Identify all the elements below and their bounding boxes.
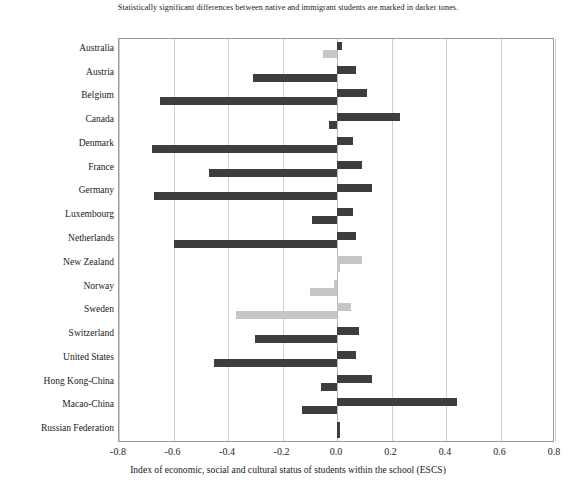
x-axis-tick-0.6: 0.6 bbox=[493, 446, 506, 457]
bar-row bbox=[119, 348, 553, 372]
bar-russian-federation-series-1 bbox=[337, 422, 340, 430]
bar-switzerland-series-2 bbox=[255, 335, 337, 343]
bar-row bbox=[119, 134, 553, 158]
bar-sweden-series-1 bbox=[337, 303, 351, 311]
bar-belgium-series-1 bbox=[337, 89, 367, 97]
x-axis-tick--0.8: -0.8 bbox=[110, 446, 126, 457]
bar-france-series-2 bbox=[209, 169, 337, 177]
bar-russian-federation-series-2 bbox=[337, 430, 340, 438]
bar-row bbox=[119, 277, 553, 301]
y-axis-label-belgium: Belgium bbox=[0, 90, 114, 100]
bar-switzerland-series-1 bbox=[337, 327, 359, 335]
y-axis-label-australia: Australia bbox=[0, 43, 114, 53]
bar-hong-kong-china-series-2 bbox=[321, 383, 337, 391]
y-axis-label-new-zealand: New Zealand bbox=[0, 257, 114, 267]
bar-new-zealand-series-2 bbox=[337, 264, 340, 272]
bar-norway-series-2 bbox=[310, 288, 337, 296]
bar-united-states-series-2 bbox=[214, 359, 337, 367]
bar-united-states-series-1 bbox=[337, 351, 356, 359]
x-axis-tick-0.8: 0.8 bbox=[548, 446, 561, 457]
bar-denmark-series-1 bbox=[337, 137, 353, 145]
y-axis-label-luxembourg: Luxembourg bbox=[0, 209, 114, 219]
bar-belgium-series-2 bbox=[160, 97, 337, 105]
bar-hong-kong-china-series-1 bbox=[337, 375, 372, 383]
bar-row bbox=[119, 324, 553, 348]
y-axis-label-russian-federation: Russian Federation bbox=[0, 423, 114, 433]
bar-new-zealand-series-1 bbox=[337, 256, 362, 264]
y-axis-label-austria: Austria bbox=[0, 67, 114, 77]
bar-luxembourg-series-1 bbox=[337, 208, 353, 216]
bar-netherlands-series-2 bbox=[174, 240, 338, 248]
bar-row bbox=[119, 110, 553, 134]
bar-row bbox=[119, 419, 553, 443]
plot-area bbox=[118, 38, 554, 442]
y-axis-label-netherlands: Netherlands bbox=[0, 233, 114, 243]
bar-austria-series-2 bbox=[253, 74, 337, 82]
x-axis-tick-0.4: 0.4 bbox=[439, 446, 452, 457]
bar-macao-china-series-1 bbox=[337, 398, 457, 406]
y-axis-labels: AustraliaAustriaBelgiumCanadaDenmarkFran… bbox=[0, 38, 114, 442]
bar-row bbox=[119, 205, 553, 229]
x-axis-tick--0.2: -0.2 bbox=[274, 446, 290, 457]
bar-australia-series-1 bbox=[337, 42, 342, 50]
chart-title: Statistically significant differences be… bbox=[0, 3, 576, 12]
y-axis-label-macao-china: Macao-China bbox=[0, 399, 114, 409]
bar-row bbox=[119, 253, 553, 277]
bar-australia-series-2 bbox=[323, 50, 337, 58]
chart-page: Statistically significant differences be… bbox=[0, 0, 576, 504]
y-axis-label-germany: Germany bbox=[0, 185, 114, 195]
bar-germany-series-2 bbox=[154, 192, 337, 200]
bar-row bbox=[119, 87, 553, 111]
bar-row bbox=[119, 395, 553, 419]
bar-germany-series-1 bbox=[337, 184, 372, 192]
y-axis-label-canada: Canada bbox=[0, 114, 114, 124]
x-axis-tick--0.6: -0.6 bbox=[165, 446, 181, 457]
bar-row bbox=[119, 182, 553, 206]
bar-row bbox=[119, 300, 553, 324]
y-axis-label-denmark: Denmark bbox=[0, 138, 114, 148]
y-axis-label-hong-kong-china: Hong Kong-China bbox=[0, 376, 114, 386]
bar-row bbox=[119, 372, 553, 396]
bar-canada-series-2 bbox=[329, 121, 337, 129]
bar-austria-series-1 bbox=[337, 66, 356, 74]
bar-row bbox=[119, 229, 553, 253]
y-axis-label-norway: Norway bbox=[0, 281, 114, 291]
bar-sweden-series-2 bbox=[236, 311, 337, 319]
gridline-0.8 bbox=[555, 39, 556, 441]
bar-row bbox=[119, 39, 553, 63]
y-axis-label-sweden: Sweden bbox=[0, 304, 114, 314]
bar-row bbox=[119, 158, 553, 182]
bar-denmark-series-2 bbox=[152, 145, 337, 153]
x-axis-tick-0.2: 0.2 bbox=[384, 446, 397, 457]
y-axis-label-united-states: United States bbox=[0, 352, 114, 362]
bar-canada-series-1 bbox=[337, 113, 400, 121]
bar-row bbox=[119, 63, 553, 87]
x-axis-labels: -0.8-0.6-0.4-0.20.00.20.40.60.8 bbox=[0, 446, 576, 462]
y-axis-label-france: France bbox=[0, 162, 114, 172]
x-axis-title: Index of economic, social and cultural s… bbox=[0, 464, 576, 475]
bars-layer bbox=[119, 39, 553, 441]
bar-norway-series-1 bbox=[334, 280, 337, 288]
y-axis-label-switzerland: Switzerland bbox=[0, 328, 114, 338]
bar-france-series-1 bbox=[337, 161, 362, 169]
x-axis-tick-0.0: 0.0 bbox=[330, 446, 343, 457]
x-axis-tick--0.4: -0.4 bbox=[219, 446, 235, 457]
bar-luxembourg-series-2 bbox=[312, 216, 337, 224]
bar-macao-china-series-2 bbox=[302, 406, 337, 414]
bar-netherlands-series-1 bbox=[337, 232, 356, 240]
